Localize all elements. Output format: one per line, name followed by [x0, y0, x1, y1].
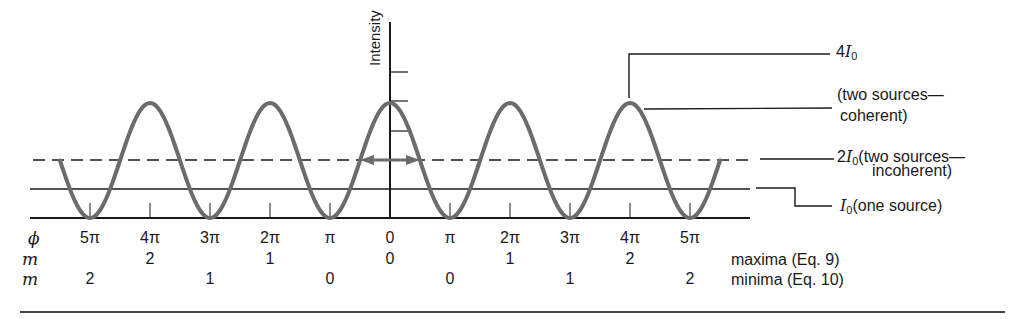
- m-minima-row-label: m: [22, 270, 38, 288]
- intensity-axis-label: Intensity: [366, 10, 383, 66]
- coherent-leader-line: [644, 108, 832, 109]
- incoherent-label-line2: incoherent): [872, 162, 952, 180]
- tick-label: 4π: [620, 229, 640, 247]
- tick-label: π: [444, 229, 455, 247]
- m-maxima-row-label: m: [22, 250, 38, 268]
- tick-label: 1: [506, 250, 515, 268]
- tick-label: 2: [146, 250, 155, 268]
- coherent-label-line2: coherent): [840, 107, 908, 125]
- tick-label: 0: [386, 250, 395, 268]
- tick-label: 1: [566, 270, 575, 288]
- i0-leader-line: [756, 188, 832, 206]
- coherent-label-line1: (two sources—: [837, 86, 944, 104]
- tick-label: 1: [266, 250, 275, 268]
- phi-row-label: ϕ: [28, 229, 40, 247]
- tick-label: 5π: [80, 229, 100, 247]
- maxima-caption: maxima (Eq. 9): [731, 251, 839, 269]
- tick-label: 5π: [680, 229, 700, 247]
- tick-label: 2π: [260, 229, 280, 247]
- four-i0-label: 4I0: [836, 43, 857, 65]
- tick-label: 4π: [140, 229, 160, 247]
- tick-label: 0: [326, 270, 335, 288]
- tick-label: 2: [686, 270, 695, 288]
- tick-label: 0: [446, 270, 455, 288]
- tick-label: 3π: [200, 229, 220, 247]
- tick-label: 2π: [500, 229, 520, 247]
- tick-label: π: [324, 229, 335, 247]
- tick-label: 2: [86, 270, 95, 288]
- minima-caption: minima (Eq. 10): [731, 271, 844, 289]
- four-i0-leader-line: [629, 54, 830, 98]
- tick-label: 0: [386, 229, 395, 247]
- tick-label: 3π: [560, 229, 580, 247]
- one-i0-label: I0(one source): [840, 197, 942, 219]
- tick-label: 2: [626, 250, 635, 268]
- tick-label: 1: [206, 270, 215, 288]
